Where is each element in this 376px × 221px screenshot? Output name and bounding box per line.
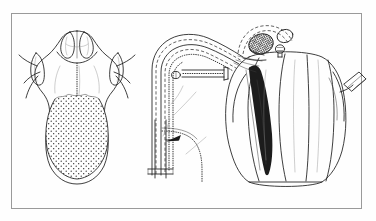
figure-plate — [0, 0, 376, 221]
figure-illustration — [0, 0, 376, 221]
